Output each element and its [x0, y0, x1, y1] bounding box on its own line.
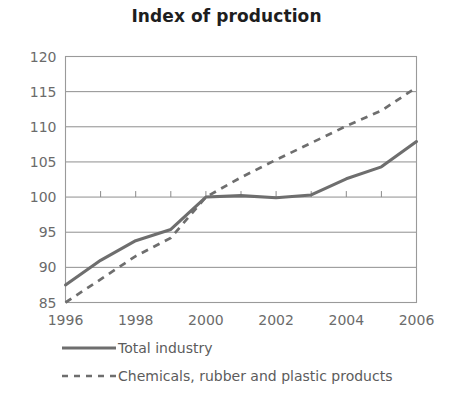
- data-series-group: [66, 87, 417, 302]
- y-tick-label: 90: [39, 259, 57, 275]
- chart-plot: 859095100105110115120 199619982000200220…: [0, 0, 453, 396]
- chart-legend: Total industryChemicals, rubber and plas…: [62, 340, 392, 384]
- y-tick-label: 85: [39, 295, 57, 311]
- y-tick-label: 110: [30, 119, 57, 135]
- x-tick-label: 2002: [258, 312, 294, 328]
- chart-container: Index of production 85909510010511011512…: [0, 0, 453, 396]
- x-tick-label: 2000: [188, 312, 224, 328]
- x-axis-labels-group: 199619982000200220042006: [48, 312, 435, 328]
- series-line-1: [66, 142, 417, 285]
- legend-label-2: Chemicals, rubber and plastic products: [118, 368, 392, 384]
- y-tick-label: 105: [30, 154, 57, 170]
- plot-frame: [66, 57, 417, 303]
- legend-label-1: Total industry: [117, 340, 213, 356]
- y-tick-label: 120: [30, 49, 57, 65]
- y-tick-label: 115: [30, 84, 57, 100]
- x-tick-label: 1996: [48, 312, 84, 328]
- x-tick-label: 1998: [118, 312, 154, 328]
- y-axis-labels-group: 859095100105110115120: [30, 49, 57, 311]
- x-tick-label: 2006: [399, 312, 435, 328]
- x-tick-label: 2004: [328, 312, 364, 328]
- y-tick-label: 95: [39, 224, 57, 240]
- y-tick-label: 100: [30, 189, 57, 205]
